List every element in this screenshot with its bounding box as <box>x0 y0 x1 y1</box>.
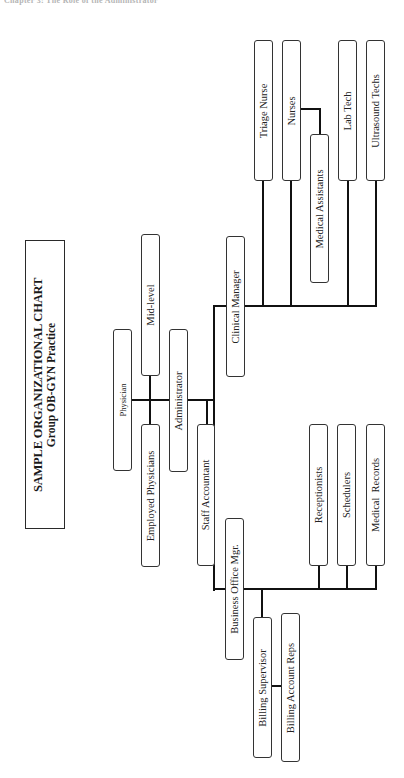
connector-medical-records <box>375 565 377 590</box>
connector-midlevel-employed <box>149 376 151 424</box>
node-medical-records: Medical Records <box>366 424 385 566</box>
node-label: Physician <box>117 383 129 416</box>
connector-triage-nurse <box>262 180 264 306</box>
connector-nurses-ma-v <box>319 108 321 135</box>
node-label: Staff Accountant <box>200 460 212 531</box>
running-head: Chapter 3: The Role of the Administrator <box>4 0 230 6</box>
connector-schedulers <box>346 565 348 589</box>
node-label: Billing Account Reps <box>285 642 297 732</box>
node-label: Employed Physicians <box>145 450 157 541</box>
node-label: Medical Records <box>370 458 382 532</box>
node-employed-physicians: Employed Physicians <box>141 424 160 567</box>
node-label: Nurses <box>286 96 298 125</box>
node-label: Ultrasound Techs <box>370 74 382 147</box>
node-administrator: Administrator <box>169 329 188 472</box>
node-label: Receptionists <box>313 467 325 524</box>
node-receptionists: Receptionists <box>309 424 328 566</box>
chart-title-box: SAMPLE ORGANIZATIONAL CHART Group OB-GYN… <box>25 240 65 529</box>
node-business-office-mgr: Business Office Mgr. <box>225 518 244 660</box>
node-billing-supervisor: Billing Supervisor <box>253 617 272 758</box>
connector-receptionists <box>318 565 320 589</box>
node-triage-nurse: Triage Nurse <box>254 40 273 181</box>
chart-title: SAMPLE ORGANIZATIONAL CHART <box>32 277 45 491</box>
connector-nurses <box>290 180 292 306</box>
node-label: Medical Assistants <box>314 169 326 248</box>
node-label: Administrator <box>173 371 185 430</box>
node-billing-account-reps: Billing Account Reps <box>281 613 300 762</box>
connector-billing-supervisor <box>261 589 263 618</box>
connector-lab-tech <box>347 180 349 306</box>
node-ultrasound-techs: Ultrasound Techs <box>366 40 385 181</box>
connector-staff-accountant <box>206 400 208 425</box>
node-label: Mid-level <box>145 284 157 325</box>
running-head-text: Chapter 3: The Role of the Administrator <box>4 0 230 5</box>
node-label: Billing Supervisor <box>257 649 269 726</box>
node-staff-accountant: Staff Accountant <box>197 424 215 566</box>
node-label: Schedulers <box>341 472 353 518</box>
node-label: Lab Tech <box>342 91 354 130</box>
connector-nurses-ma-h <box>301 108 321 110</box>
node-clinical-manager: Clinical Manager <box>226 236 245 377</box>
connector-ultrasound-techs <box>375 180 377 307</box>
node-nurses: Nurses <box>282 40 301 181</box>
node-label: Clinical Manager <box>230 270 242 343</box>
node-medical-assistants: Medical Assistants <box>310 134 329 283</box>
node-label: Triage Nurse <box>258 83 270 138</box>
node-physician: Physician <box>113 329 132 471</box>
chart-subtitle: Group OB-GYN Practice <box>45 322 58 446</box>
node-label: Business Office Mgr. <box>229 544 241 633</box>
node-lab-tech: Lab Tech <box>338 40 357 181</box>
node-schedulers: Schedulers <box>337 424 356 566</box>
node-mid-level: Mid-level <box>141 234 160 376</box>
